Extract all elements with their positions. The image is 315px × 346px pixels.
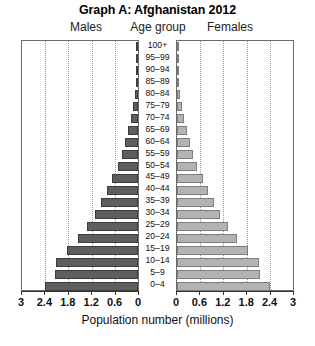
bar-females-60_64 — [177, 138, 190, 147]
bar-males-15_19 — [67, 246, 138, 255]
age-group-label: 5–9 — [138, 268, 177, 277]
age-group-label: 35–39 — [138, 196, 177, 205]
bar-males-60_64 — [125, 138, 138, 147]
axis-tick — [21, 291, 22, 295]
axis-tick — [199, 291, 200, 295]
axis-tick — [246, 291, 247, 295]
age-group-label: 15–19 — [138, 244, 177, 253]
bar-females-55_59 — [177, 150, 193, 159]
age-group-label: 25–29 — [138, 220, 177, 229]
axis-tick-label: 0 — [126, 296, 150, 308]
females-axis-line — [176, 291, 294, 292]
bar-females-85_89 — [177, 78, 179, 87]
axis-tick-label: 3 — [281, 296, 305, 308]
bar-males-5_9 — [55, 270, 138, 279]
bar-females-45_49 — [177, 174, 203, 183]
bar-males-70_74 — [131, 114, 138, 123]
bar-males-40_44 — [107, 186, 138, 195]
bar-females-50_54 — [177, 162, 197, 171]
axis-tick-label: 1.8 — [56, 296, 80, 308]
bar-females-35_39 — [177, 198, 214, 207]
bar-males-25_29 — [87, 222, 138, 231]
population-pyramid-chart: Graph A: Afghanistan 2012 Males Age grou… — [0, 0, 315, 346]
age-group-label: 20–24 — [138, 232, 177, 241]
axis-tick-label: 3 — [9, 296, 33, 308]
bar-females-100+ — [177, 42, 179, 51]
age-group-label: 100+ — [138, 41, 177, 50]
bar-males-65_69 — [128, 126, 138, 135]
males-column-header: Males — [34, 20, 138, 34]
bar-females-70_74 — [177, 114, 184, 123]
axis-tick — [44, 291, 45, 295]
axis-tick-label: 2.4 — [32, 296, 56, 308]
age-group-label: 95–99 — [138, 53, 177, 62]
bar-males-0_4 — [45, 282, 138, 291]
bar-females-5_9 — [177, 270, 260, 279]
axis-tick — [176, 291, 177, 295]
females-plot-area — [176, 40, 294, 291]
axis-tick-label: 2.4 — [258, 296, 282, 308]
age-group-label: 10–14 — [138, 256, 177, 265]
age-group-label: 40–44 — [138, 184, 177, 193]
bar-males-45_49 — [112, 174, 138, 183]
axis-tick-label: 0.6 — [103, 296, 127, 308]
axis-tick-label: 1.2 — [79, 296, 103, 308]
bar-females-25_29 — [177, 222, 228, 231]
bar-females-30_34 — [177, 210, 220, 219]
bar-males-50_54 — [118, 162, 138, 171]
age-group-label: 70–74 — [138, 113, 177, 122]
males-axis-line — [21, 291, 139, 292]
axis-tick — [293, 291, 294, 295]
axis-tick — [91, 291, 92, 295]
axis-tick-label: 1.8 — [234, 296, 258, 308]
bar-females-10_14 — [177, 258, 259, 267]
age-group-labels: 100+95–9990–9485–8980–8475–7970–7465–696… — [138, 40, 177, 291]
bar-females-0_4 — [177, 282, 270, 291]
age-group-label: 65–69 — [138, 125, 177, 134]
axis-tick-label: 0 — [164, 296, 188, 308]
age-group-label: 45–49 — [138, 172, 177, 181]
axis-tick — [115, 291, 116, 295]
males-bar-group — [22, 41, 138, 290]
axis-tick-label: 1.2 — [211, 296, 235, 308]
age-group-label: 60–64 — [138, 137, 177, 146]
bar-females-90_94 — [177, 66, 179, 75]
chart-title: Graph A: Afghanistan 2012 — [0, 3, 315, 17]
age-group-label: 85–89 — [138, 77, 177, 86]
bar-females-75_79 — [177, 102, 182, 111]
x-axis-label: Population number (millions) — [0, 313, 315, 327]
bar-males-55_59 — [122, 150, 138, 159]
bar-females-65_69 — [177, 126, 187, 135]
bar-females-15_19 — [177, 246, 248, 255]
axis-tick — [138, 291, 139, 295]
age-group-label: 50–54 — [138, 161, 177, 170]
age-group-label: 30–34 — [138, 208, 177, 217]
age-group-label: 0–4 — [138, 280, 177, 289]
males-plot-area — [21, 40, 139, 291]
axis-tick — [68, 291, 69, 295]
age-group-label: 55–59 — [138, 149, 177, 158]
bar-males-35_39 — [101, 198, 138, 207]
age-group-label: 80–84 — [138, 89, 177, 98]
bar-females-20_24 — [177, 234, 237, 243]
females-column-header: Females — [178, 20, 282, 34]
axis-tick-label: 0.6 — [187, 296, 211, 308]
bar-females-80_84 — [177, 90, 180, 99]
axis-tick — [270, 291, 271, 295]
age-group-label: 90–94 — [138, 65, 177, 74]
bar-males-10_14 — [56, 258, 138, 267]
females-bar-group — [177, 41, 293, 290]
bar-females-95_99 — [177, 54, 179, 63]
bar-males-30_34 — [95, 210, 138, 219]
axis-tick — [223, 291, 224, 295]
bar-females-40_44 — [177, 186, 208, 195]
bar-males-20_24 — [78, 234, 138, 243]
age-group-label: 75–79 — [138, 101, 177, 110]
